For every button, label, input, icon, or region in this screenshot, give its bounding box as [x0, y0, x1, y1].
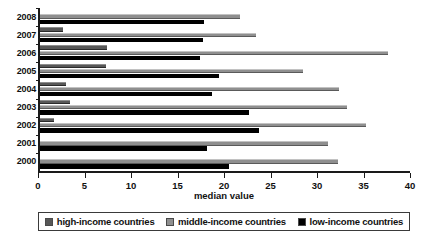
bar-middle-income-2002 — [40, 123, 366, 127]
x-axis-tick — [224, 173, 225, 178]
x-axis-tick — [85, 173, 86, 178]
bar-high-income-2007 — [40, 27, 63, 31]
bar-low-income-2005 — [40, 74, 219, 78]
bar-high-income-2004 — [40, 82, 66, 86]
year-group: 2007 — [40, 26, 410, 44]
bar-low-income-2001 — [40, 146, 207, 150]
y-axis-label: 2007 — [17, 30, 36, 40]
legend-label: low-income countries — [310, 216, 404, 227]
chart-legend: high-income countriesmiddle-income count… — [38, 212, 410, 231]
y-axis-tick — [36, 153, 40, 154]
x-axis-tick — [410, 173, 411, 178]
x-axis: 0510152025303540 — [38, 171, 410, 173]
legend-swatch-icon — [45, 218, 53, 226]
y-axis-label: 2001 — [17, 138, 36, 148]
year-group: 2001 — [40, 135, 410, 153]
bar-middle-income-2000 — [40, 159, 338, 163]
y-axis-label: 2008 — [17, 12, 36, 22]
y-axis-label: 2002 — [17, 120, 36, 130]
bar-middle-income-2001 — [40, 141, 328, 145]
x-axis-tick — [364, 173, 365, 178]
x-axis-tick — [38, 173, 39, 178]
bar-chart: 200820072006200520042003200220012000 051… — [0, 0, 421, 245]
legend-label: high-income countries — [57, 216, 155, 227]
bar-low-income-2004 — [40, 92, 212, 96]
year-group: 2004 — [40, 80, 410, 98]
y-axis-label: 2006 — [17, 48, 36, 58]
x-axis-tick — [178, 173, 179, 178]
year-group: 2008 — [40, 8, 410, 26]
legend-item: high-income countries — [45, 216, 155, 227]
year-group: 2000 — [40, 153, 410, 171]
bar-low-income-2002 — [40, 128, 259, 132]
bar-low-income-2003 — [40, 110, 249, 114]
legend-swatch-icon — [298, 218, 306, 226]
bar-low-income-2007 — [40, 38, 203, 42]
bar-low-income-2000 — [40, 164, 229, 168]
bar-high-income-2005 — [40, 64, 106, 68]
bar-middle-income-2005 — [40, 69, 303, 73]
x-axis-title: median value — [38, 190, 410, 201]
x-axis-tick — [131, 173, 132, 178]
y-axis-tick — [36, 135, 40, 136]
legend-item: low-income countries — [298, 216, 404, 227]
bar-middle-income-2008 — [40, 14, 240, 18]
bar-low-income-2008 — [40, 20, 204, 24]
bar-high-income-2002 — [40, 118, 54, 122]
bar-low-income-2006 — [40, 56, 200, 60]
y-axis-label: 2005 — [17, 66, 36, 76]
legend-item: middle-income countries — [166, 216, 286, 227]
x-axis-tick — [317, 173, 318, 178]
bar-middle-income-2003 — [40, 105, 347, 109]
plot-area: 200820072006200520042003200220012000 — [38, 8, 410, 171]
bar-middle-income-2004 — [40, 87, 339, 91]
legend-swatch-icon — [166, 218, 174, 226]
bar-high-income-2003 — [40, 100, 70, 104]
y-axis-label: 2003 — [17, 102, 36, 112]
year-group: 2005 — [40, 62, 410, 80]
year-group: 2002 — [40, 117, 410, 135]
bar-high-income-2006 — [40, 45, 107, 49]
y-axis-label: 2004 — [17, 84, 36, 94]
year-group: 2003 — [40, 99, 410, 117]
year-group: 2006 — [40, 44, 410, 62]
x-axis-tick — [271, 173, 272, 178]
bar-middle-income-2007 — [40, 33, 256, 37]
y-axis-tick — [36, 8, 40, 9]
y-axis-label: 2000 — [17, 156, 36, 166]
bar-middle-income-2006 — [40, 51, 388, 55]
legend-label: middle-income countries — [178, 216, 286, 227]
